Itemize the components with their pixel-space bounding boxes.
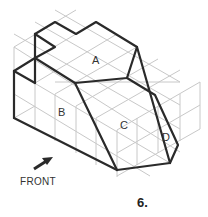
face-label-b: B [58,106,65,118]
face-label-a: A [92,54,99,66]
face-label-d: D [162,131,170,143]
front-label: FRONT [20,176,56,187]
figure-number: 6. [137,195,148,210]
isometric-grid [14,10,200,177]
arrow-up-right-icon [34,157,53,169]
face-label-c: C [120,119,128,131]
